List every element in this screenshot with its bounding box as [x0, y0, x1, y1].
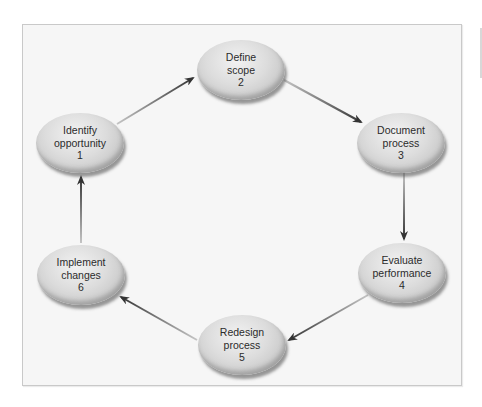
- node-document-process: Document process 3: [357, 113, 445, 173]
- node-step-number: 6: [78, 281, 84, 294]
- node-label-line2: process: [224, 339, 261, 352]
- node-step-number: 3: [398, 149, 404, 162]
- arrow-4-to-5: [289, 295, 368, 340]
- node-define-scope: Define scope 2: [197, 40, 285, 100]
- node-evaluate-performance: Evaluate performance 4: [358, 243, 446, 303]
- node-label-line1: Document: [377, 124, 425, 137]
- node-step-number: 2: [238, 76, 244, 89]
- node-label-line1: Identify: [63, 124, 97, 137]
- node-label-line2: performance: [373, 267, 432, 280]
- node-step-number: 4: [399, 279, 405, 292]
- node-redesign-process: Redesign process 5: [198, 315, 286, 375]
- node-step-number: 1: [77, 149, 83, 162]
- arrow-2-to-3: [284, 80, 361, 122]
- node-label-line2: changes: [61, 269, 101, 282]
- arrow-5-to-6: [121, 297, 197, 340]
- arrow-1-to-2: [117, 78, 193, 124]
- node-implement-changes: Implement changes 6: [37, 245, 125, 305]
- node-label-line1: Implement: [56, 256, 105, 269]
- node-label-line2: scope: [227, 64, 255, 77]
- node-label-line2: opportunity: [54, 137, 106, 150]
- node-label-line1: Redesign: [220, 326, 264, 339]
- node-label-line2: process: [383, 137, 420, 150]
- node-step-number: 5: [239, 351, 245, 364]
- node-label-line1: Define: [226, 51, 256, 64]
- node-label-line1: Evaluate: [382, 254, 423, 267]
- node-identify-opportunity: Identify opportunity 1: [36, 113, 124, 173]
